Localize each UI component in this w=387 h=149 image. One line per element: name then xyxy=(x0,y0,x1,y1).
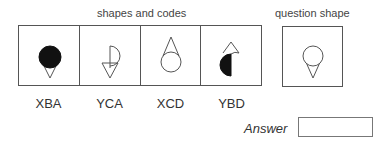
open-circle-up-triangle-icon xyxy=(141,26,202,86)
answer-label: Answer xyxy=(244,121,287,136)
shape-cell-ybd xyxy=(201,26,261,85)
filled-circle-down-triangle-icon xyxy=(19,26,80,86)
open-circle-down-triangle-icon xyxy=(283,27,344,87)
question-shape-box xyxy=(282,26,343,87)
shape-cell-xcd xyxy=(141,26,202,85)
codes-row: XBA YCA XCD YBD xyxy=(18,96,262,111)
shapes-strip xyxy=(18,25,262,86)
answer-input[interactable] xyxy=(298,117,373,137)
half-filled-circle-up-triangle-icon xyxy=(201,26,262,86)
half-circle-down-triangle-icon xyxy=(80,26,141,86)
shape-cell-yca xyxy=(80,26,141,85)
code-label: XBA xyxy=(18,96,79,111)
shape-cell-xba xyxy=(19,26,80,85)
code-label: YBD xyxy=(201,96,262,111)
code-label: YCA xyxy=(79,96,140,111)
shapes-and-codes-heading: shapes and codes xyxy=(97,7,186,19)
code-label: XCD xyxy=(140,96,201,111)
question-shape-heading: question shape xyxy=(275,7,350,19)
